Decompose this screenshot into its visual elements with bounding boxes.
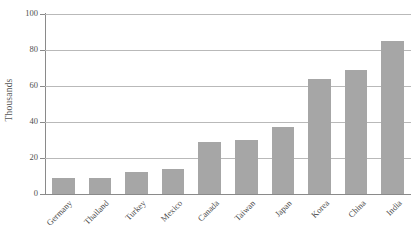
x-tick-label-korea: Korea: [309, 198, 331, 220]
bar-germany: [52, 178, 75, 194]
x-tick-label-thailand: Thailand: [82, 198, 111, 227]
y-tick-label-100: 100: [4, 9, 38, 18]
bar-thailand: [89, 178, 112, 194]
gridline-100: [45, 14, 411, 15]
y-tick-label-wrap-60: 60: [0, 81, 38, 91]
bar-taiwan: [235, 140, 258, 194]
y-tick-label-40: 40: [4, 117, 38, 126]
y-tick-label-0: 0: [4, 189, 38, 198]
x-tick-label-japan: Japan: [273, 198, 294, 219]
y-tick-label-wrap-0: 0: [0, 189, 38, 199]
bar-canada: [198, 142, 221, 194]
gridline-80: [45, 50, 411, 51]
x-tick-label-canada: Canada: [195, 198, 220, 223]
bar-japan: [272, 127, 295, 194]
x-tick-label-turkey: Turkey: [123, 198, 147, 222]
x-tick-label-germany: Germany: [45, 198, 75, 228]
x-tick-label-taiwan: Taiwan: [232, 198, 257, 223]
y-tick-label-wrap-20: 20: [0, 153, 38, 163]
bar-turkey: [125, 172, 148, 194]
plot-area: [45, 14, 411, 194]
x-tick-label-china: China: [346, 198, 368, 220]
y-tick-label-20: 20: [4, 153, 38, 162]
x-tick-label-india: India: [384, 198, 404, 218]
bar-india: [381, 41, 404, 194]
y-axis-title: Thousands: [0, 0, 18, 200]
y-tick-label-60: 60: [4, 81, 38, 90]
bar-mexico: [162, 169, 185, 194]
gridline-0: [45, 194, 411, 195]
bar-china: [345, 70, 368, 194]
x-tick-label-mexico: Mexico: [159, 198, 185, 224]
y-tick-label-wrap-100: 100: [0, 9, 38, 19]
y-tick-label-wrap-80: 80: [0, 45, 38, 55]
bar-chart: Thousands 020406080100 GermanyThailandTu…: [0, 0, 417, 244]
y-tick-label-80: 80: [4, 45, 38, 54]
y-tick-label-wrap-40: 40: [0, 117, 38, 127]
bar-korea: [308, 79, 331, 194]
